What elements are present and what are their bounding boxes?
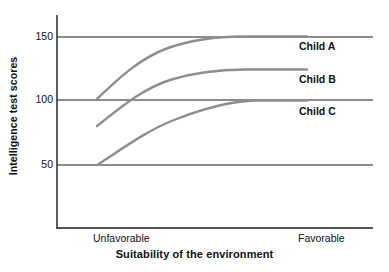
y-tick-label-150: 150	[25, 30, 53, 42]
curve-child-b	[97, 69, 307, 126]
curve-child-c	[97, 101, 307, 166]
y-tick-label-50: 50	[25, 158, 53, 170]
series-label-child-c: Child C	[299, 105, 336, 117]
gridlines	[57, 37, 373, 165]
x-axis-label: Suitability of the environment	[0, 248, 389, 260]
x-tick-label-unfavorable: Unfavorable	[93, 232, 150, 244]
curves	[97, 36, 307, 165]
series-label-child-b: Child B	[299, 73, 336, 85]
x-tick-label-favorable: Favorable	[298, 232, 345, 244]
chart-figure: Intelligence test scores 150 100 50 Unfa…	[0, 0, 389, 272]
series-label-child-a: Child A	[299, 40, 335, 52]
curve-child-a	[97, 36, 307, 99]
y-tick-label-100: 100	[25, 93, 53, 105]
